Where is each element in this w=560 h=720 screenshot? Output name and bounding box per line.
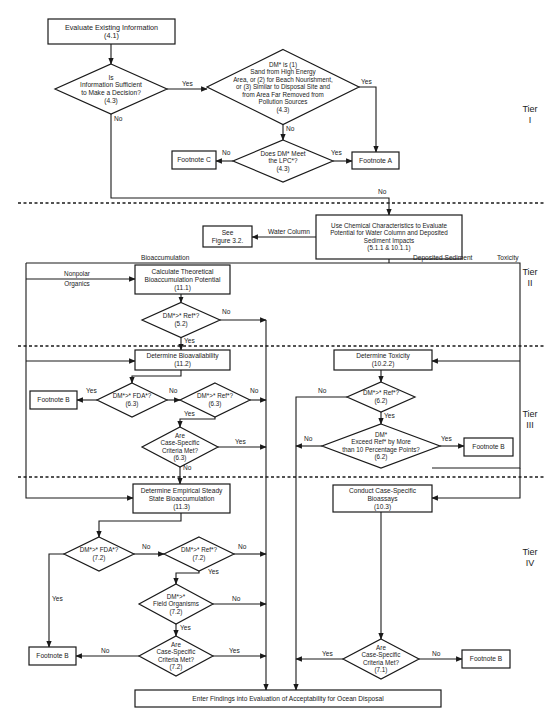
edge-label: No bbox=[142, 543, 151, 550]
connector-arrow bbox=[99, 513, 181, 537]
process-use-chemical: Use Chemical Characteristics to Evaluate… bbox=[316, 215, 462, 259]
process-empirical-ss: Determine Empirical SteadyState Bioaccum… bbox=[133, 484, 230, 513]
edge-label: No bbox=[304, 435, 313, 442]
node-text: Footnote A bbox=[359, 157, 392, 164]
edge-label: Bioaccumulation bbox=[141, 254, 190, 261]
edge-label: Yes bbox=[182, 80, 193, 87]
decision-dm-fda-63: DM*>* FDA*?(6.3) bbox=[97, 383, 167, 417]
edge-label: No bbox=[378, 188, 387, 195]
node-text: Footnote B bbox=[36, 652, 69, 659]
decision-dm-ref-72: DM*>* Ref*?(7.2) bbox=[164, 537, 234, 571]
edge-label: Yes bbox=[331, 149, 342, 156]
decision-dm-exceed-62: DM*Exceed Ref* by Morethan 10 Percentage… bbox=[322, 424, 440, 468]
decision-dm-meet-lpc: Does DM* Meetthe LPC*?(4.3) bbox=[233, 140, 333, 182]
decision-case-63: AreCase-SpecificCriteria Met?(6.3) bbox=[142, 427, 218, 467]
process-determine-toxicity: Determine Toxicity(10.2.2) bbox=[334, 350, 432, 370]
edge-label: No bbox=[169, 387, 178, 394]
node-text: Footnote B bbox=[470, 655, 503, 662]
decision-dm-ref-62: DM*>* Ref*?(6.2) bbox=[347, 382, 415, 412]
process-footnote-b2: Footnote B bbox=[464, 438, 513, 456]
edge-label: No bbox=[101, 647, 110, 654]
edge-label: Yes bbox=[441, 435, 452, 442]
edge-label: No bbox=[250, 387, 259, 394]
decision-case-72: AreCase-SpecificCriteria Met?(7.2) bbox=[139, 636, 213, 676]
edge-label: Yes bbox=[180, 624, 191, 631]
edge-label: No bbox=[222, 308, 231, 315]
process-footnote-a: Footnote A bbox=[352, 152, 399, 169]
process-evaluate-existing: Evaluate Existing Information(4.1) bbox=[48, 19, 175, 44]
process-footnote-b4: Footnote B bbox=[462, 650, 510, 668]
process-footnote-b3: Footnote B bbox=[29, 647, 76, 665]
process-case-bioassays: Conduct Case-SpecificBioassays(10.3) bbox=[333, 485, 432, 512]
decision-case-71: AreCase-SpecificCriteria Met?(7.1) bbox=[343, 639, 419, 679]
connector-arrow bbox=[176, 571, 199, 584]
edge-label: Yes bbox=[229, 647, 240, 654]
edge-label: No bbox=[318, 387, 327, 394]
tier-label: TierI bbox=[522, 104, 537, 125]
edge-label: Yes bbox=[235, 438, 246, 445]
edge-label: No bbox=[238, 543, 247, 550]
connector-arrow bbox=[432, 468, 520, 498]
decision-info-sufficient: IsInformation Sufficientto Make a Decisi… bbox=[55, 64, 167, 114]
connector-arrow bbox=[359, 87, 376, 152]
edge-label: Yes bbox=[322, 650, 333, 657]
decision-dm-ref-52: DM*>* Ref*?(5.2) bbox=[142, 303, 220, 338]
process-determine-bioavail: Determine Bioavailability(11.2) bbox=[135, 350, 230, 370]
edge-label: No bbox=[183, 464, 192, 471]
node-text: Enter Findings into Evaluation of Accept… bbox=[192, 695, 384, 703]
edge-label: Yes bbox=[184, 337, 195, 344]
node-text: Footnote C bbox=[177, 156, 211, 163]
edge-label: Yes bbox=[361, 78, 372, 85]
process-footnote-b1: Footnote B bbox=[30, 391, 77, 409]
edge-label: Yes bbox=[384, 412, 395, 419]
edge-label: No bbox=[286, 125, 295, 132]
process-see-figure: SeeFigure 3.2. bbox=[203, 226, 252, 247]
decision-dm-fda-72: DM*>* FDA*?(7.2) bbox=[64, 537, 134, 571]
flowchart: Evaluate Existing Information(4.1)IsInfo… bbox=[0, 0, 560, 720]
tier-label: TierII bbox=[522, 267, 537, 288]
edge-label: Yes bbox=[52, 595, 63, 602]
edge-label: Yes bbox=[208, 568, 219, 575]
edge-label: Deposited Sediment bbox=[413, 254, 473, 262]
node-text: Footnote B bbox=[472, 443, 505, 450]
edge-label: No bbox=[222, 149, 231, 156]
edge-label: Toxicity bbox=[497, 254, 519, 262]
edge-label: Water Column bbox=[268, 228, 310, 235]
connector-arrow bbox=[180, 417, 215, 427]
edge-label: No bbox=[114, 115, 123, 122]
edge-label: Yes bbox=[184, 410, 195, 417]
node-text: Footnote B bbox=[37, 396, 70, 403]
edge-label: No bbox=[432, 650, 441, 657]
tier-label: TierIII bbox=[522, 409, 537, 430]
edge-label: Yes bbox=[86, 387, 97, 394]
decision-dm-is-sand: DM* is (1)Sand from High EnergyArea, or … bbox=[207, 50, 359, 125]
process-calc-theoretical: Calculate TheoreticalBioaccumulation Pot… bbox=[135, 265, 230, 294]
tier-label: TierIV bbox=[522, 547, 537, 568]
connector-arrow bbox=[26, 263, 133, 498]
connector-arrow bbox=[132, 370, 181, 383]
process-footnote-c: Footnote C bbox=[172, 151, 216, 169]
edge-label: No bbox=[232, 595, 241, 602]
decision-dm-field-72: DM*>*Field Organisms(7.2) bbox=[139, 584, 213, 624]
process-enter-findings: Enter Findings into Evaluation of Accept… bbox=[135, 690, 441, 707]
